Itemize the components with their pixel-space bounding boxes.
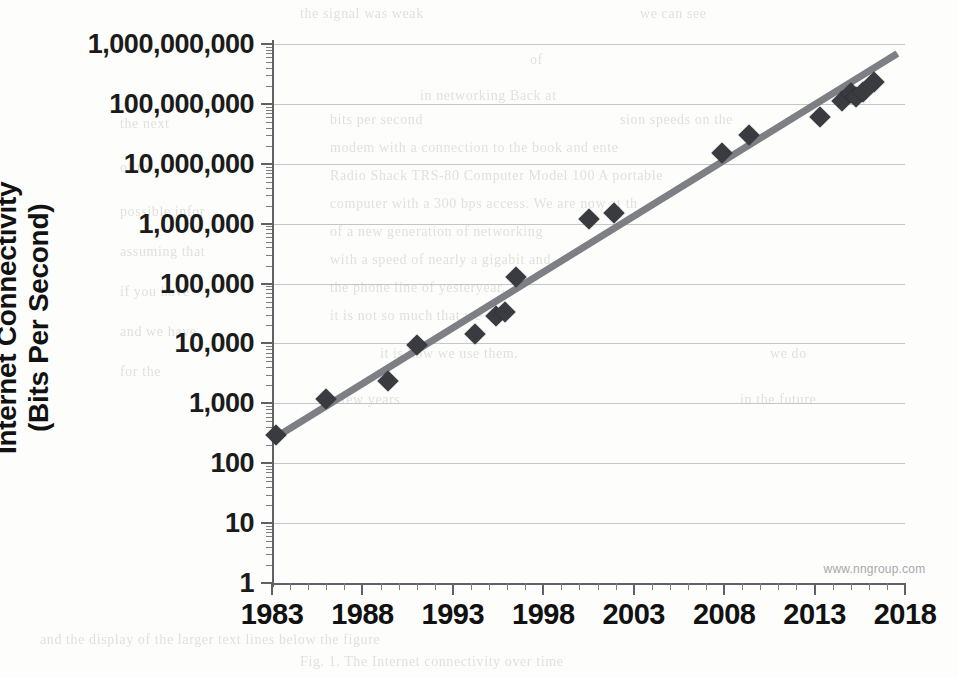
x-axis-tick-minor: [579, 583, 580, 590]
y-axis-tick-minor: [266, 315, 272, 316]
x-axis-tick-minor: [489, 583, 490, 590]
x-axis-tick-minor: [887, 583, 888, 590]
x-axis-line: [272, 583, 906, 585]
y-axis-tick-minor: [266, 367, 272, 368]
y-axis-tick-minor: [266, 413, 272, 414]
x-axis-tick-minor: [796, 583, 797, 590]
chart-page: the signal was weakwe can seeofin networ…: [0, 0, 958, 678]
y-axis-tick-minor: [266, 495, 272, 496]
y-axis-tick-minor: [266, 47, 272, 48]
y-axis-tick-minor: [266, 75, 272, 76]
y-axis-tick-minor: [266, 195, 272, 196]
y-axis-tick-minor: [266, 113, 272, 114]
y-axis-tick-minor: [266, 565, 272, 566]
y-axis-tick-minor: [266, 62, 272, 63]
gridline-horizontal: [272, 164, 905, 165]
y-axis-tick-major: [261, 462, 272, 464]
x-axis-tick-minor: [760, 583, 761, 590]
x-axis-tick-minor: [833, 583, 834, 590]
x-axis-tick-minor: [471, 583, 472, 590]
x-axis-tick-minor: [435, 583, 436, 590]
y-axis-tick-minor: [266, 266, 272, 267]
y-axis-title-line-1: Internet Connectivity: [0, 103, 23, 533]
y-axis-tick-minor: [266, 226, 272, 227]
x-axis-tick-major: [452, 583, 454, 595]
y-axis-tick-minor: [266, 529, 272, 530]
y-axis-tick-minor: [266, 477, 272, 478]
x-axis-tick-minor: [670, 583, 671, 590]
gridline-horizontal: [272, 44, 905, 45]
y-axis-tick-label: 100,000,000: [109, 88, 254, 119]
x-axis-tick-minor: [326, 583, 327, 590]
y-axis-tick-minor: [266, 532, 272, 533]
x-axis-tick-minor: [417, 583, 418, 590]
x-axis-tick-minor: [561, 583, 562, 590]
y-axis-tick-minor: [266, 353, 272, 354]
y-axis-tick-minor: [266, 487, 272, 488]
x-axis-tick-label: 2013: [783, 598, 846, 631]
y-axis-tick-minor: [266, 357, 272, 358]
y-axis-line: [272, 40, 274, 587]
x-axis-tick-major: [904, 583, 906, 595]
y-axis-tick-minor: [266, 86, 272, 87]
y-axis-tick-minor: [266, 237, 272, 238]
x-axis-tick-major: [271, 583, 273, 595]
y-axis-tick-minor: [266, 409, 272, 410]
x-axis-tick-major: [361, 583, 363, 595]
y-axis-tick-minor: [266, 302, 272, 303]
y-axis-tick-label: 10,000,000: [124, 148, 254, 179]
x-axis-tick-major: [723, 583, 725, 595]
y-axis-tick-minor: [266, 547, 272, 548]
y-axis-tick-minor: [266, 206, 272, 207]
y-axis-tick-minor: [266, 170, 272, 171]
y-axis-tick-minor: [266, 135, 272, 136]
y-axis-tick-minor: [266, 229, 272, 230]
y-axis-tick-minor: [266, 247, 272, 248]
x-axis-tick-minor: [851, 583, 852, 590]
x-axis-tick-minor: [652, 583, 653, 590]
x-axis-tick-minor: [344, 583, 345, 590]
y-axis-tick-minor: [266, 297, 272, 298]
y-axis-tick-minor: [266, 536, 272, 537]
y-axis-tick-label: 1,000,000,000: [88, 29, 254, 60]
y-axis-tick-minor: [266, 554, 272, 555]
y-axis-tick-major: [261, 103, 272, 105]
y-axis-tick-minor: [266, 385, 272, 386]
y-axis-tick-minor: [266, 242, 272, 243]
y-axis-tick-label: 10: [225, 508, 254, 539]
x-axis-tick-minor: [778, 583, 779, 590]
y-axis-tick-minor: [266, 182, 272, 183]
x-axis-tick-minor: [706, 583, 707, 590]
y-axis-tick-minor: [266, 417, 272, 418]
y-axis-tick-label: 10,000: [174, 328, 254, 359]
y-axis-tick-major: [261, 43, 272, 45]
gridline-horizontal: [272, 403, 905, 404]
gridline-horizontal: [272, 523, 905, 524]
y-axis-tick-minor: [266, 293, 272, 294]
y-axis-tick-minor: [266, 110, 272, 111]
y-axis-tick-minor: [266, 472, 272, 473]
x-axis-tick-label: 2003: [602, 598, 665, 631]
y-axis-tick-minor: [266, 466, 272, 467]
x-axis-tick-major: [814, 583, 816, 595]
gridline-horizontal: [272, 463, 905, 464]
y-axis-tick-minor: [266, 307, 272, 308]
x-axis-tick-minor: [616, 583, 617, 590]
y-axis-tick-minor: [266, 289, 272, 290]
y-axis-tick-minor: [266, 128, 272, 129]
y-axis-tick-label: 100: [210, 448, 254, 479]
bleedthrough-text: for the: [120, 364, 161, 380]
x-axis-tick-label: 1993: [422, 598, 485, 631]
x-axis-tick-minor: [525, 583, 526, 590]
y-axis-tick-minor: [266, 50, 272, 51]
bleedthrough-text: assuming that: [120, 244, 205, 260]
y-axis-tick-minor: [266, 173, 272, 174]
x-axis-tick-minor: [290, 583, 291, 590]
bleedthrough-text: Fig. 1. The Internet connectivity over t…: [300, 654, 563, 670]
x-axis-tick-minor: [598, 583, 599, 590]
bleedthrough-text: we can see: [640, 6, 707, 22]
y-axis-tick-minor: [266, 526, 272, 527]
x-axis-tick-minor: [869, 583, 870, 590]
x-axis-tick-label: 1988: [331, 598, 394, 631]
y-axis-tick-label: 1: [239, 568, 254, 599]
